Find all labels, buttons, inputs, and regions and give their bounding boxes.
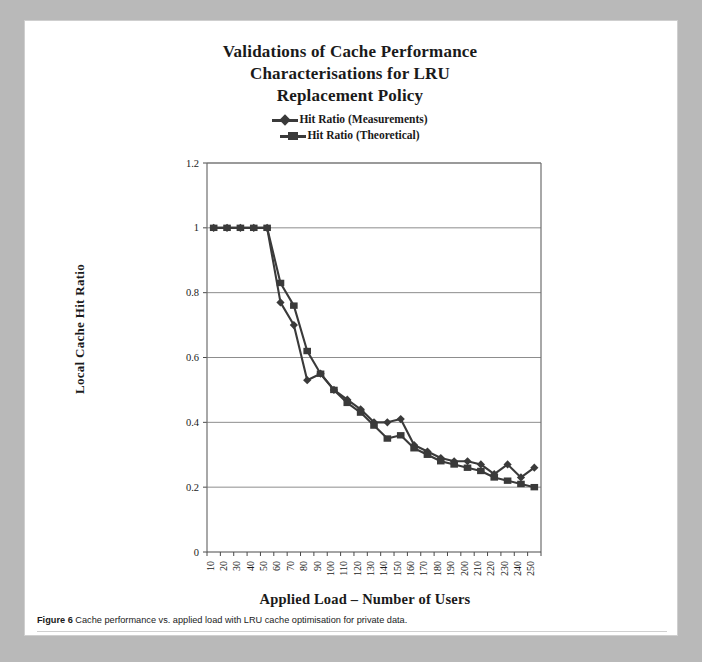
series-line-measurements [214,228,535,478]
data-point-marker [450,461,458,467]
data-point-marker [303,348,311,354]
data-point-marker [477,468,485,474]
figure-container: Validations of Cache Performance Charact… [25,21,679,637]
x-axis-tick-label: 180 [432,561,443,576]
x-axis-tick-label: 210 [472,561,483,576]
data-point-marker [383,418,391,426]
data-point-marker [490,474,498,480]
x-axis-tick-label: 80 [298,561,309,571]
data-point-marker [343,400,351,406]
data-point-marker [464,465,472,471]
y-axis-tick-label: 0.6 [186,352,199,363]
data-point-marker [223,225,231,231]
x-axis-tick-label: 150 [392,561,403,576]
x-axis-tick-label: 130 [365,561,376,576]
data-point-marker [303,376,311,384]
x-axis-tick-label: 10 [205,561,216,571]
chart-svg: 00.20.40.60.811.210203040506070809010011… [25,21,679,637]
y-axis-tick-label: 1.2 [186,158,199,169]
x-axis-tick-label: 220 [485,561,496,576]
data-point-marker [357,409,365,415]
x-axis-tick-label: 40 [245,561,256,571]
caption-text: Cache performance vs. applied load with … [75,615,407,625]
data-point-marker [463,457,471,465]
data-point-marker [504,477,512,483]
x-axis-title: Applied Load – Number of Users [155,591,575,608]
x-axis-tick-label: 70 [285,561,296,571]
x-axis-tick-label: 100 [325,561,336,576]
x-axis-tick-label: 140 [378,561,389,576]
x-axis-tick-label: 200 [459,561,470,576]
data-point-marker [517,481,525,487]
x-axis-tick-label: 50 [258,561,269,571]
y-axis-tick-label: 0.2 [186,482,199,493]
plot-area-wrapper: Local Cache Hit Ratio 00.20.40.60.811.21… [25,21,679,637]
data-point-marker [330,387,338,393]
x-axis-tick-label: 240 [512,561,523,576]
data-point-marker [290,302,298,308]
y-axis-tick-label: 0.4 [186,417,200,428]
y-axis-tick-label: 0 [194,547,199,558]
data-point-marker [397,432,405,438]
data-point-marker [437,458,445,464]
data-point-marker [277,280,285,286]
data-point-marker [237,225,245,231]
data-point-marker [424,452,432,458]
data-point-marker [210,225,218,231]
page-background: Validations of Cache Performance Charact… [0,0,702,662]
data-point-marker [370,422,378,428]
x-axis-tick-label: 190 [445,561,456,576]
x-axis-tick-label: 110 [338,561,349,576]
document-sheet: Validations of Cache Performance Charact… [24,20,678,636]
data-point-marker [317,371,325,377]
x-axis-tick-label: 90 [312,561,323,571]
x-axis-tick-label: 160 [405,561,416,576]
x-axis-tick-label: 230 [499,561,510,576]
x-axis-tick-label: 170 [418,561,429,576]
x-axis-tick-label: 20 [218,561,229,571]
data-point-marker [263,225,271,231]
x-axis-tick-label: 30 [231,561,242,571]
data-point-marker [384,435,392,441]
data-point-marker [250,225,258,231]
caption-label: Figure 6 [37,615,73,625]
caption-divider [37,631,667,632]
data-point-marker [531,484,539,490]
x-axis-tick-label: 120 [352,561,363,576]
x-axis-tick-label: 60 [271,561,282,571]
figure-caption: Figure 6 Cache performance vs. applied l… [37,615,667,625]
y-axis-tick-label: 1 [194,222,199,233]
data-point-marker [410,445,418,451]
x-axis-tick-label: 250 [525,561,536,576]
y-axis-tick-label: 0.8 [186,287,199,298]
